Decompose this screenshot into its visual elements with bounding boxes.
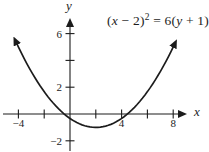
x-tick-label: −4 (13, 117, 25, 129)
equation-part: + 1) (182, 13, 209, 28)
x-axis-letter: x (194, 105, 200, 118)
x-tick-label: 8 (170, 117, 176, 129)
equation-label: (x − 2)2 = 6(y + 1) (107, 13, 209, 29)
figure-canvas: −448−226 y x (x − 2)2 = 6(y + 1) (0, 0, 209, 152)
y-axis-letter: y (66, 0, 72, 12)
y-tick-label: 6 (57, 28, 63, 40)
y-tick-label: −2 (50, 135, 62, 147)
y-tick-label: 2 (57, 81, 63, 93)
equation-part: − 2 (118, 13, 140, 28)
parabola-curve (16, 43, 173, 127)
equation-part: = 6( (150, 13, 177, 28)
